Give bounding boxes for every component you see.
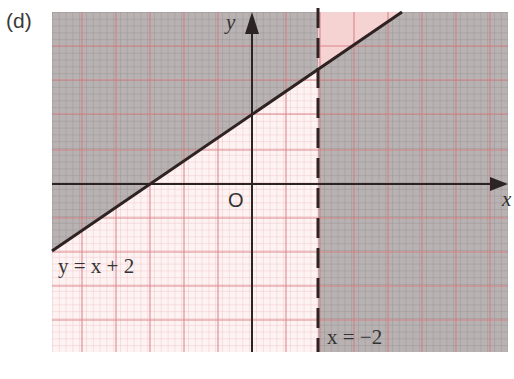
inequality-graph: y x O y = x + 2 x = −2 (0, 0, 514, 379)
dashed-line-label: x = −2 (327, 325, 382, 349)
x-axis-label: x (501, 187, 512, 211)
origin-label: O (228, 189, 244, 211)
y-axis-label: y (224, 10, 236, 34)
solid-line-label: y = x + 2 (58, 254, 134, 278)
